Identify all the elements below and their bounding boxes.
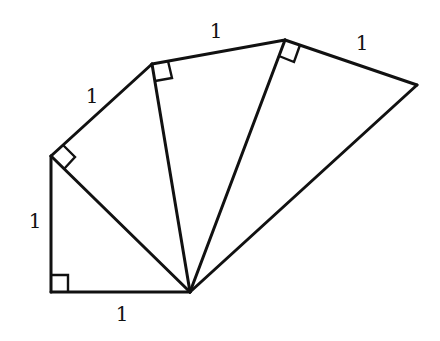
hypotenuse-OB [51, 156, 190, 292]
spiral-diagram: 1 1 1 1 1 [0, 0, 440, 341]
label-CD: 1 [210, 19, 223, 43]
edge-CD [152, 40, 285, 64]
edge-BC [51, 64, 152, 156]
hypotenuse-OD [190, 40, 285, 292]
hypotenuse-OE [190, 85, 417, 292]
label-BC: 1 [86, 84, 99, 108]
hypotenuse-OC [152, 64, 190, 292]
label-DE: 1 [356, 31, 369, 55]
edge-DE [285, 40, 417, 85]
label-OA: 1 [116, 302, 129, 326]
label-AB: 1 [29, 209, 42, 233]
right-angle-marker-B [63, 145, 75, 169]
right-angle-marker-A [51, 275, 68, 292]
